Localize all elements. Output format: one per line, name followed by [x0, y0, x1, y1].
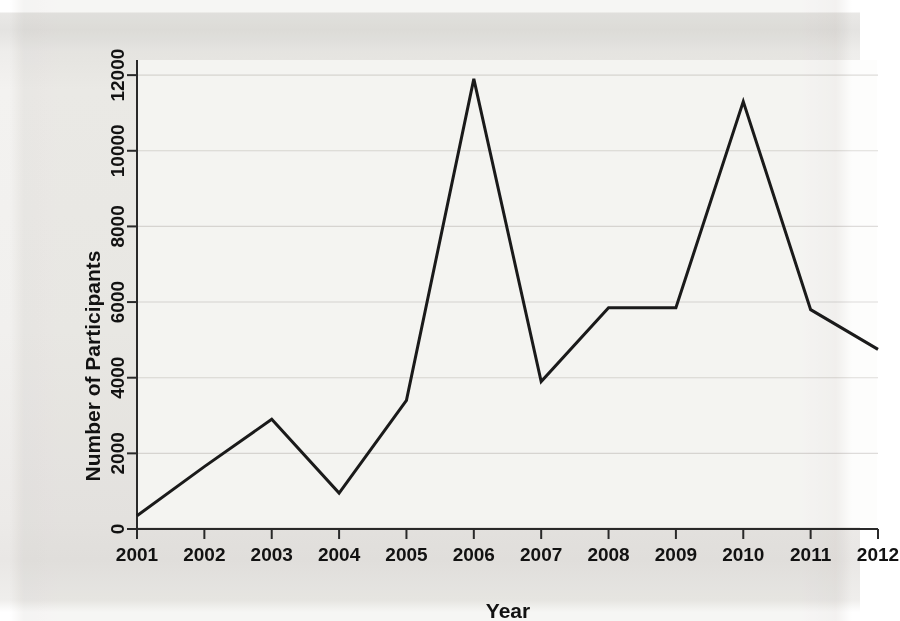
axis-lines	[137, 60, 878, 529]
y-tick-label: 2000	[107, 432, 128, 474]
x-axis-title: Year	[486, 599, 530, 621]
y-axis-title: Number of Participants	[81, 250, 104, 481]
x-axis-tick-labels: 2001200220032004200520062007200820092010…	[116, 544, 899, 565]
x-tick-label: 2005	[385, 544, 428, 565]
x-tick-label: 2009	[655, 544, 697, 565]
axis-tick-marks	[127, 75, 878, 539]
x-tick-label: 2002	[183, 544, 225, 565]
gridlines	[137, 75, 878, 529]
data-series-group	[137, 79, 878, 516]
x-tick-label: 2003	[251, 544, 293, 565]
y-tick-label: 4000	[107, 357, 128, 399]
y-tick-label: 12000	[107, 49, 128, 102]
line-chart-figure: 020004000600080001000012000 200120022003…	[40, 16, 900, 621]
y-tick-label: 8000	[107, 205, 128, 247]
x-tick-label: 2012	[857, 544, 899, 565]
x-tick-label: 2007	[520, 544, 562, 565]
x-tick-label: 2006	[453, 544, 495, 565]
y-tick-label: 10000	[107, 124, 128, 177]
x-tick-label: 2011	[790, 544, 832, 565]
x-tick-label: 2008	[587, 544, 629, 565]
x-tick-label: 2010	[722, 544, 764, 565]
y-tick-label: 0	[107, 524, 128, 535]
y-tick-label: 6000	[107, 281, 128, 323]
y-axis-tick-labels: 020004000600080001000012000	[107, 49, 128, 535]
x-tick-label: 2004	[318, 544, 361, 565]
x-tick-label: 2001	[116, 544, 159, 565]
chart-svg: 020004000600080001000012000 200120022003…	[40, 16, 900, 621]
participants-line	[137, 79, 878, 516]
